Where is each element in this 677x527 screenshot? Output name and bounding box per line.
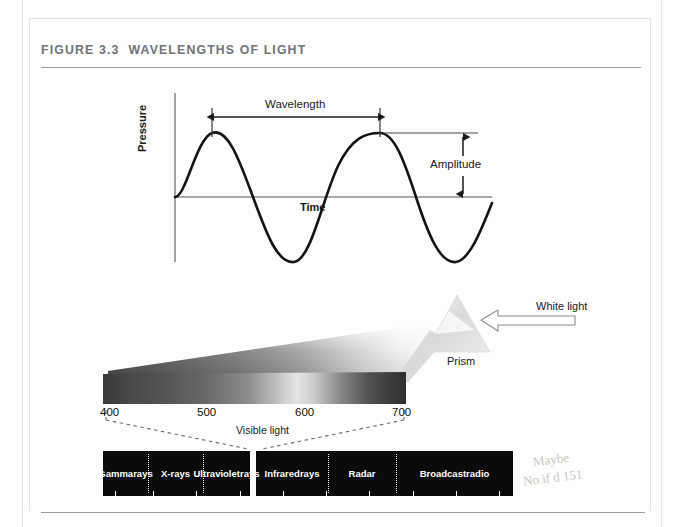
em-band-label-line: rays: [300, 468, 320, 480]
title-divider: [41, 67, 641, 68]
figure-frame: [29, 18, 651, 511]
em-band-label-line: Infrared: [265, 468, 300, 480]
visible-light-label: Visible light: [236, 424, 289, 436]
em-tick-8: [456, 491, 457, 496]
em-band-label-line: Ultraviolet: [193, 468, 239, 480]
wavelength-tick-400: 400: [100, 406, 119, 418]
em-band-infrared: Infraredrays: [256, 451, 328, 496]
page-edge-left: [22, 0, 23, 527]
wavelength-tick-600: 600: [295, 406, 314, 418]
em-band-label-line: Gamma: [98, 468, 133, 480]
em-tick-4: [283, 491, 284, 496]
em-band-label-line: Radar: [349, 468, 376, 480]
em-band-label-line: X-rays: [161, 468, 190, 480]
em-band-gamma: Gammarays: [103, 451, 148, 496]
em-tick-7: [413, 491, 414, 496]
wave-y-axis-label: Pressure: [136, 105, 148, 152]
em-band-ultraviolet: Ultravioletrays: [203, 451, 250, 496]
page-edge-right: [661, 0, 662, 527]
em-tick-0: [115, 491, 116, 496]
figure-title: FIGURE 3.3WAVELENGTHS OF LIGHT: [41, 43, 306, 57]
em-band-broadcast: Broadcastradio: [396, 451, 513, 496]
white-light-label: White light: [536, 300, 587, 312]
scanned-page: FIGURE 3.3WAVELENGTHS OF LIGHT: [0, 0, 677, 527]
figure-title-text: WAVELENGTHS OF LIGHT: [128, 43, 306, 57]
amplitude-label: Amplitude: [430, 158, 481, 170]
wavelength-label: Wavelength: [265, 98, 325, 110]
figure-number: FIGURE 3.3: [41, 43, 119, 57]
wave-x-axis-label: Time: [300, 201, 325, 213]
em-band-label-line: radio: [466, 468, 489, 480]
em-tick-2: [196, 491, 197, 496]
wavelength-tick-700: 700: [392, 406, 411, 418]
em-band-radar: Radar: [328, 451, 396, 496]
em-tick-5: [326, 491, 327, 496]
em-tick-3: [240, 491, 241, 496]
wavelength-tick-500: 500: [197, 406, 216, 418]
em-tick-1: [153, 491, 154, 496]
em-tick-6: [369, 491, 370, 496]
em-tick-9: [499, 491, 500, 496]
em-band-label-line: Broadcast: [420, 468, 466, 480]
electromagnetic-spectrum-bar: GammaraysX-raysUltravioletraysInfraredra…: [103, 451, 513, 496]
bottom-divider: [41, 512, 645, 513]
prism-label: Prism: [447, 355, 475, 367]
